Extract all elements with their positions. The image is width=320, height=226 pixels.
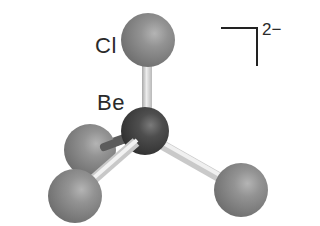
charge-bracket-vertical: [256, 27, 258, 66]
charge-bracket-horizontal: [221, 27, 258, 29]
atom-cl-front-left: [48, 169, 102, 223]
ion-charge-label: 2−: [262, 21, 281, 38]
bond-be-cl-top: [142, 62, 152, 112]
atom-cl-top: [121, 13, 175, 67]
atom-cl-right: [214, 163, 268, 217]
beryllium-label: Be: [97, 92, 125, 114]
chlorine-label: Cl: [95, 35, 117, 57]
